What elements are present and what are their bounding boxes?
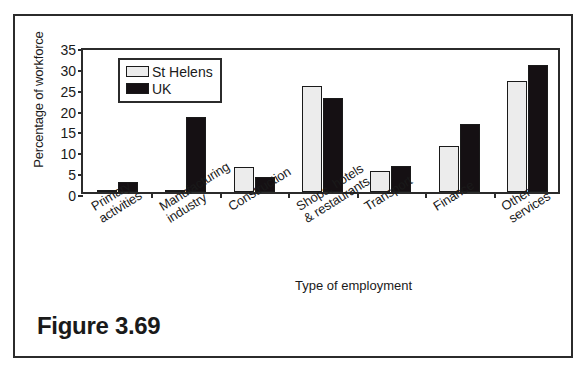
- y-tick-label: 30: [60, 64, 76, 78]
- legend-label-st-helens: St Helens: [152, 65, 213, 79]
- plot-area: 05101520253035 St Helens UK: [81, 48, 560, 194]
- bar-st-helens: [507, 81, 527, 192]
- chart-legend: St Helens UK: [118, 58, 222, 103]
- x-tick-mark: [288, 192, 290, 198]
- y-tick-label: 25: [60, 85, 76, 99]
- bar-group: [234, 50, 275, 192]
- bar-group: [370, 50, 411, 192]
- x-tick-mark: [425, 192, 427, 198]
- bar-st-helens: [302, 86, 322, 192]
- y-tick-label: 0: [68, 189, 76, 203]
- legend-item-st-helens: St Helens: [126, 63, 213, 80]
- bar-chart: Percentage of workforce 05101520253035 S…: [15, 16, 575, 306]
- y-tick-label: 15: [60, 126, 76, 140]
- legend-label-uk: UK: [152, 82, 171, 96]
- x-tick-mark: [151, 192, 153, 198]
- bar-uk: [528, 65, 548, 192]
- x-tick-mark: [494, 192, 496, 198]
- y-tick-label: 5: [68, 168, 76, 182]
- x-axis-title: Type of employment: [295, 278, 412, 293]
- bar-group: [507, 50, 548, 192]
- figure-frame: Percentage of workforce 05101520253035 S…: [13, 14, 573, 358]
- y-axis-title: Percentage of workforce: [31, 15, 46, 185]
- bar-group: [302, 50, 343, 192]
- y-tick-label: 10: [60, 147, 76, 161]
- legend-item-uk: UK: [126, 80, 213, 97]
- y-tick-label: 20: [60, 106, 76, 120]
- bar-group: [439, 50, 480, 192]
- figure-caption: Figure 3.69: [37, 312, 160, 340]
- y-tick-mark: [78, 195, 83, 197]
- legend-swatch-st-helens: [126, 66, 149, 77]
- legend-swatch-uk: [126, 83, 149, 94]
- y-tick-label: 35: [60, 43, 76, 57]
